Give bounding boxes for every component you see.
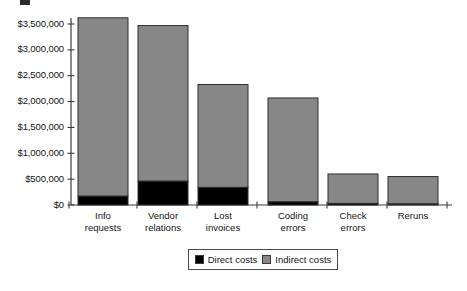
x-axis-tick-label-line: Lost xyxy=(188,210,258,222)
legend-label-direct: Direct costs xyxy=(208,254,258,265)
bar-group xyxy=(268,98,318,205)
bar-group xyxy=(388,177,438,205)
x-axis-tick-label-line: invoices xyxy=(188,222,258,234)
x-axis-tick-label-line: Reruns xyxy=(378,210,448,222)
legend-swatch-direct-icon xyxy=(195,255,204,264)
x-axis-tick-label: Lostinvoices xyxy=(188,210,258,233)
legend-swatch-indirect-icon xyxy=(262,255,271,264)
y-axis-tick-label: $2,500,000 xyxy=(0,69,64,80)
y-axis-tick-label: $0 xyxy=(0,199,64,210)
legend-item-indirect-costs: Indirect costs xyxy=(262,254,331,265)
x-axis-tick-label: Reruns xyxy=(378,210,448,222)
y-axis-tick-label: $500,000 xyxy=(0,173,64,184)
y-axis-tick-label: $2,000,000 xyxy=(0,95,64,106)
bar-group xyxy=(138,26,188,205)
bar-group xyxy=(328,174,378,205)
bar-group xyxy=(198,85,248,205)
y-axis-tick-label: $3,500,000 xyxy=(0,18,64,29)
legend-label-indirect: Indirect costs xyxy=(275,254,331,265)
y-axis-tick-label: $1,500,000 xyxy=(0,121,64,132)
plot-area xyxy=(0,0,467,291)
x-axis-tick-label-line: errors xyxy=(318,222,388,234)
y-axis-tick-label: $1,000,000 xyxy=(0,147,64,158)
bar-group xyxy=(78,18,128,205)
y-axis-tick-label: $3,000,000 xyxy=(0,43,64,54)
stacked-bar-chart: $0$500,000$1,000,000$1,500,000$2,000,000… xyxy=(0,0,467,291)
legend-item-direct-costs: Direct costs xyxy=(195,254,258,265)
chart-legend: Direct costs Indirect costs xyxy=(188,249,338,270)
